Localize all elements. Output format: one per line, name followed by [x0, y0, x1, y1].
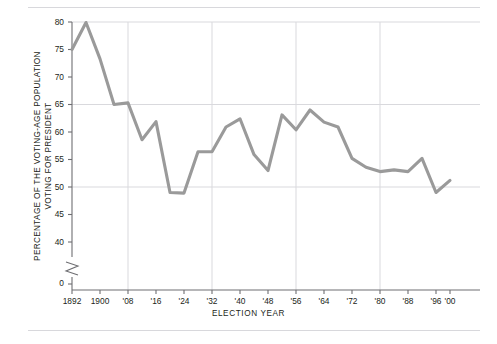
- y-tick-label: 50: [40, 182, 64, 192]
- y-tick-label-zero: 0: [40, 278, 64, 288]
- y-tick-label: 60: [40, 127, 64, 137]
- chart-figure: PERCENTAGE OF THE VOTING-AGE POPULATION …: [0, 0, 497, 344]
- y-axis-break-icon: [66, 262, 78, 275]
- turnout-data-line: [72, 23, 450, 194]
- y-tick-label: 40: [40, 237, 64, 247]
- y-tick-label: 65: [40, 99, 64, 109]
- y-tick-label: 55: [40, 154, 64, 164]
- y-tick-label: 70: [40, 72, 64, 82]
- y-tick-label: 45: [40, 209, 64, 219]
- gridlines: [72, 22, 480, 290]
- x-tick-label: '00: [430, 296, 470, 306]
- y-tick-label: 75: [40, 44, 64, 54]
- x-axis-title: ELECTION YEAR: [0, 309, 497, 318]
- y-tick-label: 80: [40, 17, 64, 27]
- line-chart-plot: [0, 0, 497, 344]
